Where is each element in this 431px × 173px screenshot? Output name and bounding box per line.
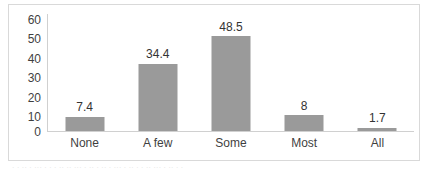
bar-value-label-most: 8 (301, 100, 308, 112)
bar-slot-none: 7.4 (48, 14, 121, 131)
bar-value-label-a-few: 34.4 (146, 48, 169, 60)
y-tick-30: 30 (10, 72, 41, 84)
y-axis-tick-labels: 60 50 40 30 20 10 0 (10, 0, 41, 173)
chart-screenshot: 60 50 40 30 20 10 0 7.4 34.4 48.5 8 1.7 (0, 0, 431, 173)
x-label-a-few: A few (121, 136, 194, 150)
bar-slot-all: 1.7 (341, 14, 414, 131)
x-label-all: All (341, 136, 414, 150)
bar-value-label-all: 1.7 (369, 112, 386, 124)
bar-a-few[interactable] (138, 64, 177, 131)
x-axis-line (47, 131, 414, 132)
y-tick-40: 40 (10, 53, 41, 65)
bar-value-label-none: 7.4 (76, 101, 93, 113)
x-label-some: Some (194, 136, 267, 150)
bar-slot-most: 8 (268, 14, 341, 131)
bar-slot-some: 48.5 (194, 14, 267, 131)
x-label-most: Most (268, 136, 341, 150)
page-bleed-text: · · ·· · ··· · · · ·· ·· ··· · ·· · ·· ·… (12, 164, 420, 172)
x-label-none: None (48, 136, 121, 150)
bar-none[interactable] (65, 117, 104, 131)
bar-slot-a-few: 34.4 (121, 14, 194, 131)
y-tick-20: 20 (10, 92, 41, 104)
y-tick-60: 60 (10, 14, 41, 26)
bar-most[interactable] (285, 115, 324, 131)
bar-all[interactable] (358, 128, 397, 131)
bar-some[interactable] (211, 36, 250, 131)
y-tick-10: 10 (10, 111, 41, 123)
y-tick-50: 50 (10, 33, 41, 45)
x-axis-category-labels: None A few Some Most All (48, 136, 414, 156)
y-tick-0: 0 (10, 126, 41, 138)
bars-container: 7.4 34.4 48.5 8 1.7 (48, 14, 414, 131)
bar-value-label-some: 48.5 (219, 21, 242, 33)
